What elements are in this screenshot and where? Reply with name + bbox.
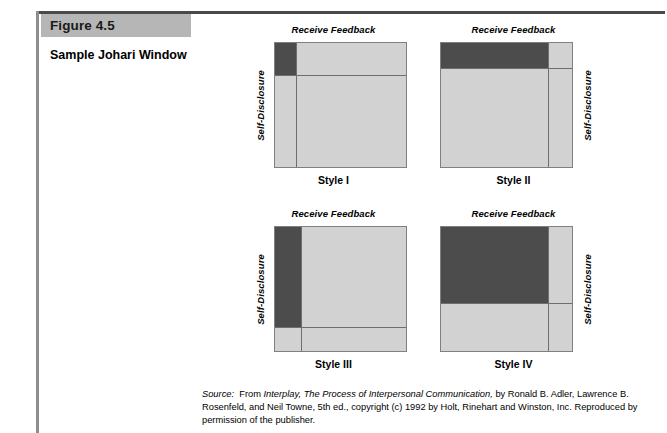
quadrant-vertical-divider [548, 227, 549, 351]
johari-grid [440, 226, 573, 352]
receive-feedback-label: Receive Feedback [433, 208, 594, 219]
style-caption: Style II [433, 174, 594, 186]
style-caption: Style I [253, 174, 414, 186]
johari-window-style-4: Receive Feedback Self-Disclosure Style I… [433, 208, 594, 374]
quadrant-dark [275, 227, 301, 327]
quadrant-horizontal-divider [441, 303, 572, 304]
quadrant-horizontal-divider [275, 327, 406, 328]
johari-grid [274, 226, 407, 352]
receive-feedback-label: Receive Feedback [253, 24, 414, 35]
figure-number-badge: Figure 4.5 [41, 14, 191, 37]
style-caption: Style III [253, 358, 414, 370]
receive-feedback-label: Receive Feedback [433, 24, 594, 35]
quadrant-dark [441, 43, 548, 68]
quadrant-horizontal-divider [441, 68, 572, 69]
johari-window-style-3: Receive Feedback Self-Disclosure Style I… [253, 208, 414, 374]
figure-number-label: Figure 4.5 [50, 18, 115, 33]
receive-feedback-label: Receive Feedback [253, 208, 414, 219]
self-disclosure-label: Self-Disclosure [253, 226, 267, 352]
johari-grid [274, 42, 407, 168]
quadrant-vertical-divider [296, 43, 297, 167]
quadrant-vertical-divider [301, 227, 302, 351]
source-citation: Source: From Interplay, The Process of I… [202, 388, 657, 428]
johari-window-style-1: Receive Feedback Self-Disclosure Style I [253, 24, 414, 190]
source-work-title: Interplay, The Process of Interpersonal … [264, 389, 493, 399]
source-label: Source: [202, 389, 234, 399]
quadrant-horizontal-divider [275, 75, 406, 76]
quadrant-dark [441, 227, 548, 303]
left-divider-rule [36, 11, 39, 433]
source-intro: From [239, 389, 261, 399]
self-disclosure-label: Self-Disclosure [253, 42, 267, 168]
johari-window-style-2: Receive Feedback Self-Disclosure Style I… [433, 24, 594, 190]
figure-title: Sample Johari Window [50, 48, 200, 63]
quadrant-dark [275, 43, 296, 75]
johari-grid [440, 42, 573, 168]
style-caption: Style IV [433, 358, 594, 370]
self-disclosure-label: Self-Disclosure [580, 42, 594, 168]
quadrant-vertical-divider [548, 43, 549, 167]
self-disclosure-label: Self-Disclosure [580, 226, 594, 352]
